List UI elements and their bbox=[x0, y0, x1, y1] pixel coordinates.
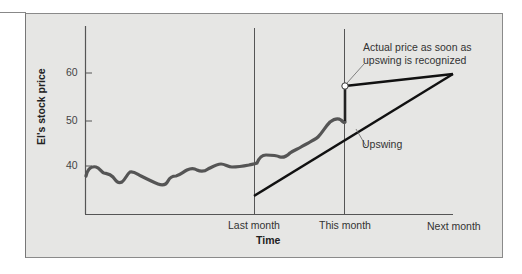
annotation-actual-line2: upswing is recognized bbox=[363, 54, 472, 67]
y-tick-label-40: 40 bbox=[66, 159, 78, 171]
y-tick-label-50: 50 bbox=[66, 114, 78, 126]
annotation-actual-line1: Actual price as soon as bbox=[363, 41, 472, 54]
x-axis-label: Time bbox=[256, 234, 280, 246]
y-tick-label-60: 60 bbox=[66, 66, 78, 78]
x-tick-label-this-month: This month bbox=[319, 219, 371, 231]
annotation-upswing: Upswing bbox=[362, 138, 402, 151]
y-axis-label: El's stock price bbox=[35, 68, 47, 145]
annotation-actual-price: Actual price as soon as upswing is recog… bbox=[363, 41, 472, 67]
upswing-trend-line bbox=[254, 74, 453, 196]
x-tick-label-next-month: Next month bbox=[427, 220, 481, 232]
recognized-price-marker bbox=[342, 83, 348, 89]
stock-price-curve bbox=[86, 119, 345, 185]
x-tick-label-last-month: Last month bbox=[228, 219, 280, 231]
annotation-leader-actual bbox=[347, 64, 364, 83]
